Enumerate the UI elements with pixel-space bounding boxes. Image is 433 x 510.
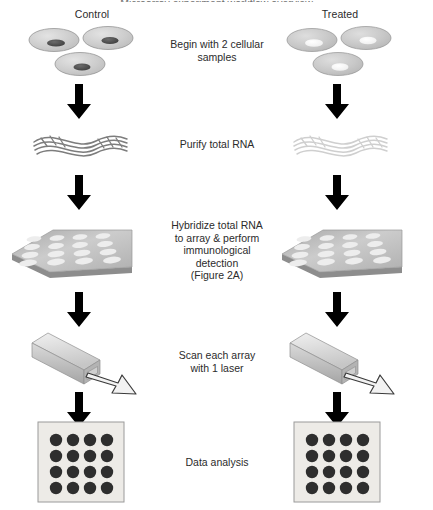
caption-line: samples (142, 51, 292, 64)
step-caption-hybridize: Hybridize total RNA to array & perform i… (142, 219, 292, 282)
microarray-slide-icon (278, 216, 406, 288)
microarray-slide-icon (8, 216, 136, 288)
down-arrow-icon (64, 84, 94, 120)
caption-line: with 1 laser (142, 362, 292, 375)
step-caption-cells: Begin with 2 cellular samples (142, 38, 292, 63)
caption-line: to array & perform (142, 232, 292, 245)
microarray-workflow-figure: Microarray experiment workflow overview … (0, 0, 433, 510)
down-arrow-icon (322, 84, 352, 120)
step-caption-analysis: Data analysis (142, 456, 292, 469)
rna-strands-light-icon (288, 126, 392, 168)
column-label-control: Control (42, 8, 142, 20)
caption-line: Purify total RNA (142, 138, 292, 151)
caption-line: Data analysis (142, 456, 292, 469)
step-caption-rna: Purify total RNA (142, 138, 292, 151)
down-arrow-icon (322, 292, 352, 328)
caption-line: Scan each array (142, 349, 292, 362)
spot-grid-result-icon (36, 420, 128, 506)
step-caption-scan: Scan each array with 1 laser (142, 349, 292, 374)
cells-dark-nuclei-icon (22, 24, 140, 82)
cells-light-nuclei-icon (280, 24, 400, 82)
down-arrow-icon (322, 175, 352, 211)
laser-scanner-icon (26, 331, 142, 399)
caption-line: Begin with 2 cellular (142, 38, 292, 51)
laser-scanner-icon (284, 331, 400, 399)
spot-grid-result-icon (292, 420, 384, 506)
clipped-title-text: Microarray experiment workflow overview (0, 0, 433, 2)
caption-line: detection (142, 257, 292, 270)
caption-line: Hybridize total RNA (142, 219, 292, 232)
column-label-treated: Treated (290, 8, 390, 20)
caption-line: (Figure 2A) (142, 269, 292, 282)
down-arrow-icon (64, 292, 94, 328)
down-arrow-icon (64, 175, 94, 211)
rna-strands-dark-icon (28, 126, 132, 168)
caption-line: immunological (142, 244, 292, 257)
